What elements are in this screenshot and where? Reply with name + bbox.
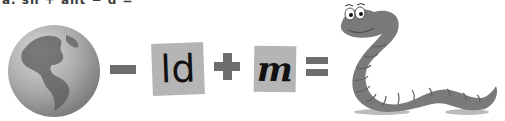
equals-sign-bottom	[306, 69, 328, 76]
card-ld: ld	[151, 42, 205, 96]
plus-sign-vertical	[223, 53, 232, 80]
top-text: a. sn + ant − d =	[2, 0, 134, 7]
card-m-text: m	[257, 49, 294, 90]
worm-icon	[332, 0, 505, 121]
card-m: m	[254, 46, 297, 93]
equals-sign-top	[306, 57, 328, 64]
minus-sign	[110, 65, 136, 74]
card-ld-text: ld	[160, 46, 196, 91]
globe-icon	[8, 25, 100, 117]
